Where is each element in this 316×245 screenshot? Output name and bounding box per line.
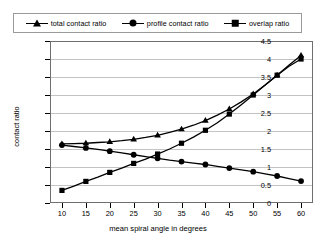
y-axis-tick-label: 3	[267, 91, 271, 100]
y-axis-tick-label: 4	[267, 55, 271, 64]
gridline	[51, 77, 312, 78]
x-axis-tick-mark	[182, 203, 183, 208]
x-axis-title: mean spiral angle in degrees	[0, 224, 316, 233]
y-axis-tick-mark	[45, 77, 50, 78]
y-axis-tick-mark	[45, 149, 50, 150]
y-axis-tick-label: 1	[267, 163, 271, 172]
y-axis-tick-label: 2	[267, 127, 271, 136]
chart-figure: total contact ratio profile contact rati…	[0, 0, 316, 245]
gridline	[51, 95, 312, 96]
x-axis-tick-label: 60	[297, 209, 305, 218]
y-axis-tick-label: 3.5	[261, 73, 271, 82]
chart-legend: total contact ratio profile contact rati…	[13, 13, 302, 33]
legend-label: profile contact ratio	[147, 19, 209, 28]
x-axis-tick-label: 25	[130, 209, 138, 218]
y-axis-tick-label: 0.5	[261, 181, 271, 190]
x-axis-tick-mark	[158, 203, 159, 208]
x-axis-tick-label: 50	[249, 209, 257, 218]
x-axis-tick-mark	[110, 203, 111, 208]
circle-marker-icon	[122, 19, 144, 28]
y-axis-tick-label: 4.5	[261, 37, 271, 46]
y-axis-tick-mark	[45, 167, 50, 168]
gridline	[51, 149, 312, 150]
x-axis-tick-mark	[301, 203, 302, 208]
gridline	[51, 185, 312, 186]
y-axis-tick-mark	[45, 131, 50, 132]
square-marker-icon	[224, 19, 246, 28]
y-axis-tick-mark	[45, 113, 50, 114]
x-axis-tick-label: 40	[201, 209, 209, 218]
x-axis-tick-label: 55	[273, 209, 281, 218]
legend-entry-overlap-ratio: overlap ratio	[224, 19, 289, 28]
plot-area	[50, 41, 313, 203]
x-axis-tick-label: 30	[153, 209, 161, 218]
x-axis-tick-label: 45	[225, 209, 233, 218]
x-axis-tick-label: 10	[58, 209, 66, 218]
x-axis-tick-mark	[229, 203, 230, 208]
x-axis-tick-label: 15	[82, 209, 90, 218]
legend-label: total contact ratio	[51, 19, 107, 28]
y-axis-tick-label: 1.5	[261, 145, 271, 154]
gridline	[51, 131, 312, 132]
y-axis-tick-mark	[45, 59, 50, 60]
x-axis-tick-mark	[253, 203, 254, 208]
y-axis-tick-label: 2.5	[261, 109, 271, 118]
x-axis-tick-mark	[86, 203, 87, 208]
y-axis	[0, 0, 50, 245]
x-axis-tick-mark	[205, 203, 206, 208]
x-axis-tick-mark	[277, 203, 278, 208]
y-axis-tick-mark	[45, 95, 50, 96]
gridline	[51, 59, 312, 60]
y-axis-tick-label: 0	[267, 199, 271, 208]
x-axis-tick-mark	[134, 203, 135, 208]
x-axis-tick-mark	[62, 203, 63, 208]
legend-entry-profile-contact-ratio: profile contact ratio	[122, 19, 209, 28]
y-axis-tick-mark	[45, 203, 50, 204]
gridline	[51, 113, 312, 114]
x-axis-tick-label: 20	[106, 209, 114, 218]
x-axis-tick-label: 35	[177, 209, 185, 218]
y-axis-title: contact ratio	[12, 87, 21, 167]
gridline	[51, 167, 312, 168]
legend-label: overlap ratio	[249, 19, 289, 28]
y-axis-tick-mark	[45, 185, 50, 186]
y-axis-tick-mark	[45, 41, 50, 42]
